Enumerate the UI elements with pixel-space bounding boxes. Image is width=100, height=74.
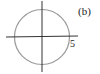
figure-label: (b): [78, 6, 91, 17]
radius-label: 5: [70, 38, 75, 49]
